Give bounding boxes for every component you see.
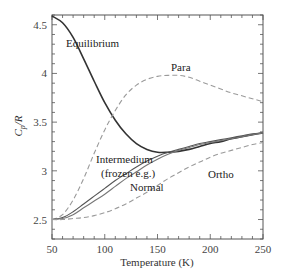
y-axis-title: Cp/R — [12, 115, 27, 136]
label-ortho: Ortho — [208, 168, 234, 180]
x-tick-label: 200 — [202, 243, 219, 255]
series-para — [52, 75, 263, 219]
label-normal: Normal — [130, 181, 164, 193]
y-tick-label: 3.5 — [33, 116, 47, 128]
cp-vs-temperature-chart: 501001502002502.533.544.5 Equilibrium Pa… — [0, 0, 283, 279]
x-tick-label: 100 — [97, 243, 114, 255]
label-para: Para — [171, 61, 191, 73]
y-axis-title-rest: /R — [12, 115, 24, 126]
svg-text:Cp/R: Cp/R — [12, 115, 27, 136]
label-equilibrium: Equilibrium — [66, 37, 120, 49]
y-tick-label: 2.5 — [33, 214, 47, 226]
x-tick-label: 50 — [47, 243, 59, 255]
x-axis-title: Temperature (K) — [120, 256, 194, 269]
x-tick-label: 250 — [255, 243, 272, 255]
label-intermedium-frozen: (frozen e.g.) — [101, 167, 155, 180]
y-tick-label: 4.5 — [33, 19, 47, 31]
x-tick-label: 150 — [149, 243, 166, 255]
y-tick-label: 4 — [42, 67, 48, 79]
label-intermedium: Intermedium — [96, 153, 153, 165]
y-tick-label: 3 — [42, 165, 48, 177]
